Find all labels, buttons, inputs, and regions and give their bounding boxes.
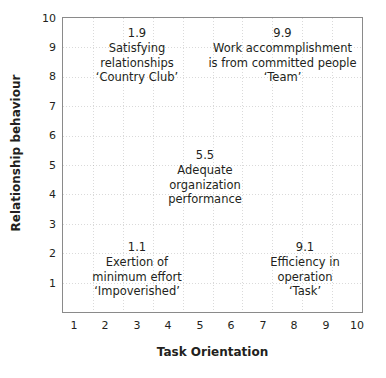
y-tick-10: 10 (34, 13, 56, 24)
grid-point-9-9-line-1: Work accommplishment (200, 41, 365, 56)
grid-point-9-1-line-2: operation (245, 270, 365, 285)
gridline-horizontal (63, 106, 362, 107)
grid-point-9-9-line-2: is from committed people (200, 56, 365, 71)
grid-point-1-1: 1.1 Exertion of minimum effort ‘Impoveri… (62, 240, 212, 299)
y-tick-8: 8 (34, 71, 56, 82)
grid-point-9-1-line-1: Efficiency in (245, 255, 365, 270)
gridline-horizontal (63, 136, 362, 137)
grid-point-1-1-value: 1.1 (62, 240, 212, 255)
grid-point-1-1-line-2: minimum effort (62, 270, 212, 285)
y-tick-7: 7 (34, 101, 56, 112)
grid-point-1-9-line-1: Satisfying (62, 41, 212, 56)
x-tick-7: 7 (251, 320, 275, 331)
x-tick-1: 1 (62, 320, 86, 331)
x-tick-5: 5 (188, 320, 212, 331)
y-tick-2: 2 (34, 248, 56, 259)
x-tick-6: 6 (219, 320, 243, 331)
x-tick-4: 4 (156, 320, 180, 331)
x-axis-ticks: 1 2 3 4 5 6 7 8 9 10 (0, 320, 386, 334)
grid-point-9-9: 9.9 Work accommplishment is from committ… (200, 26, 365, 85)
managerial-grid-chart: 1.9 Satisfying relationships ‘Country Cl… (0, 0, 386, 378)
x-tick-9: 9 (314, 320, 338, 331)
grid-point-1-1-line-1: Exertion of (62, 255, 212, 270)
grid-point-9-1: 9.1 Efficiency in operation ‘Task’ (245, 240, 365, 299)
x-tick-10: 10 (345, 320, 369, 331)
y-tick-4: 4 (34, 189, 56, 200)
grid-point-1-9-value: 1.9 (62, 26, 212, 41)
grid-point-9-9-line-3: ‘Team’ (200, 70, 365, 85)
grid-point-5-5: 5.5 Adequate organization performance (145, 148, 265, 207)
grid-point-9-9-value: 9.9 (200, 26, 365, 41)
grid-point-5-5-line-1: Adequate (145, 163, 265, 178)
grid-point-1-1-line-3: ‘Impoverished’ (62, 284, 212, 299)
grid-point-9-1-line-3: ‘Task’ (245, 284, 365, 299)
grid-point-1-9-line-2: relationships (62, 56, 212, 71)
grid-point-5-5-value: 5.5 (145, 148, 265, 163)
grid-point-1-9: 1.9 Satisfying relationships ‘Country Cl… (62, 26, 212, 85)
grid-point-5-5-line-3: performance (145, 192, 265, 207)
y-tick-6: 6 (34, 130, 56, 141)
x-tick-2: 2 (93, 320, 117, 331)
y-tick-3: 3 (34, 219, 56, 230)
x-tick-8: 8 (282, 320, 306, 331)
gridline-horizontal (63, 224, 362, 225)
y-tick-1: 1 (34, 278, 56, 289)
y-tick-9: 9 (34, 42, 56, 53)
grid-point-1-9-line-3: ‘Country Club’ (62, 70, 212, 85)
grid-point-9-1-value: 9.1 (245, 240, 365, 255)
grid-point-5-5-line-2: organization (145, 178, 265, 193)
y-tick-5: 5 (34, 160, 56, 171)
y-axis-title: Relationship behaviour (9, 53, 23, 253)
x-tick-3: 3 (125, 320, 149, 331)
x-axis-title: Task Orientation (62, 345, 363, 359)
